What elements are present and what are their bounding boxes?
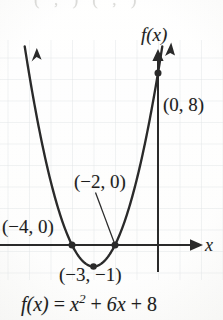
equation-variable: x: [70, 293, 79, 315]
y-axis-function-label: f(x): [141, 25, 167, 44]
marker-y-intercept: [155, 70, 162, 77]
label-y-intercept: (0, 8): [163, 95, 204, 114]
equation-six-x: 6x: [107, 293, 126, 315]
label-root-right: (−2, 0): [74, 172, 126, 191]
quadratic-graph-figure: ( , ) ( , ) f(x) (0, 8) (−2, 0) (−4, 0) …: [0, 0, 223, 320]
equation-plus-six: +: [91, 293, 107, 315]
equation-remainder: + 6x + 8: [91, 293, 157, 315]
clipped-top-text-fragment: ( , ) ( , ): [34, 0, 141, 8]
marker-root-right: [112, 242, 119, 249]
label-vertex: (−3, −1): [59, 265, 122, 284]
marker-root-left: [69, 242, 76, 249]
x-axis-label: x: [205, 236, 213, 254]
y-axis: [152, 49, 163, 272]
equation-exponent: 2: [79, 291, 86, 306]
equation-equals-sign: =: [54, 293, 65, 315]
equation-lhs: f(x): [21, 293, 49, 315]
point-markers: [69, 70, 162, 270]
x-axis: [0, 239, 203, 251]
equation-plus-eight: + 8: [126, 293, 157, 315]
leader-line-root-right: [96, 193, 115, 243]
function-equation: f(x) = x2 + 6x + 8: [21, 292, 157, 314]
label-root-left: (−4, 0): [2, 217, 54, 236]
